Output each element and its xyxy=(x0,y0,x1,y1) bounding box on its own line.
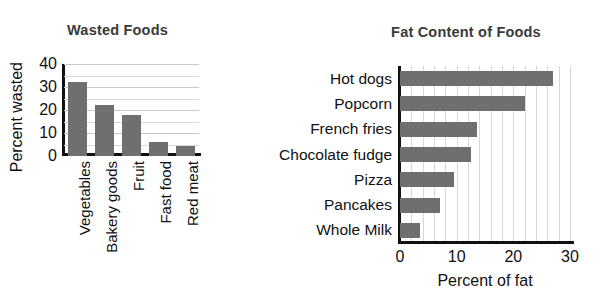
fat-content-plot-area: Hot dogsPopcornFrench friesChocolate fud… xyxy=(400,66,570,243)
wasted-foods-plot-area: 010203040 VegetablesBakery goodsFruitFas… xyxy=(64,64,199,156)
category-label: Pizza xyxy=(354,172,392,188)
gridline xyxy=(525,66,526,243)
bar xyxy=(149,142,168,156)
gridline xyxy=(513,66,514,243)
gridline xyxy=(536,66,537,243)
gridline xyxy=(64,64,199,65)
fat-content-x-axis-title: Percent of fat xyxy=(437,272,532,290)
x-tick-label: 20 xyxy=(504,248,522,266)
gridline xyxy=(502,66,503,243)
wasted-foods-title: Wasted Foods xyxy=(10,22,225,38)
wasted-foods-y-axis-title: Percent wasted xyxy=(8,62,26,172)
x-tick-label: 0 xyxy=(396,248,405,266)
bar xyxy=(122,115,141,156)
bar xyxy=(95,105,114,156)
bar xyxy=(400,172,454,187)
wasted-foods-chart-panel: Wasted Foods Percent wasted 010203040 Ve… xyxy=(0,0,236,304)
category-label: Whole Milk xyxy=(316,223,392,239)
bar xyxy=(176,146,195,156)
y-tick-label: 10 xyxy=(39,125,57,141)
fat-content-chart-panel: Fat Content of Foods Hot dogsPopcornFren… xyxy=(236,0,603,304)
bar xyxy=(400,96,525,111)
gridline xyxy=(570,66,571,243)
y-tick-label: 0 xyxy=(48,148,57,164)
x-tick-label: 30 xyxy=(561,248,579,266)
x-category-label: Bakery goods xyxy=(102,161,119,253)
y-tick-label: 30 xyxy=(39,79,57,95)
gridline xyxy=(559,66,560,243)
bar xyxy=(400,147,471,162)
gridline xyxy=(64,76,199,77)
two-bar-charts-figure: Wasted Foods Percent wasted 010203040 Ve… xyxy=(0,0,603,304)
bar xyxy=(400,122,477,137)
fat-content-title: Fat Content of Foods xyxy=(341,24,591,40)
x-category-label: Vegetables xyxy=(75,161,92,235)
category-label: French fries xyxy=(310,121,392,137)
y-tick-label: 40 xyxy=(39,56,57,72)
bar xyxy=(400,71,553,86)
bar xyxy=(400,223,420,238)
x-axis-line-right xyxy=(398,241,574,244)
x-tick-label: 10 xyxy=(448,248,466,266)
category-label: Popcorn xyxy=(334,96,392,112)
bar xyxy=(68,82,87,156)
y-tick-label: 20 xyxy=(39,102,57,118)
category-label: Chocolate fudge xyxy=(279,147,392,163)
category-label: Hot dogs xyxy=(330,71,392,87)
x-category-label: Red meat xyxy=(183,161,200,226)
gridline xyxy=(491,66,492,243)
x-category-label: Fruit xyxy=(129,161,146,191)
gridline xyxy=(547,66,548,243)
gridline xyxy=(479,66,480,243)
x-category-label: Fast food xyxy=(156,161,173,224)
category-label: Pancakes xyxy=(324,197,392,213)
bar xyxy=(400,198,440,213)
